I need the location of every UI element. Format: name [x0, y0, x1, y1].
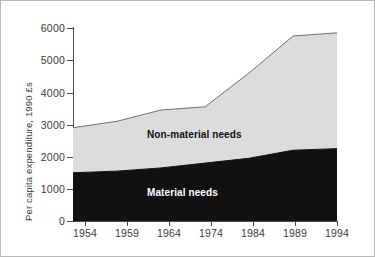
- y-tick-label-1000: 1000: [1, 183, 65, 195]
- series-label-material-needs: Material needs: [147, 187, 218, 198]
- y-tick-label-6000: 6000: [1, 22, 65, 34]
- x-tick-label-1964: 1964: [157, 227, 181, 239]
- x-tick-1974: [211, 221, 212, 226]
- x-tick-label-1989: 1989: [283, 227, 307, 239]
- x-tick-label-1974: 1974: [199, 227, 223, 239]
- x-tick-1984: [253, 221, 254, 226]
- x-tick-label-1984: 1984: [241, 227, 265, 239]
- x-tick-1964: [169, 221, 170, 226]
- y-tick-label-2000: 2000: [1, 151, 65, 163]
- y-tick-label-5000: 5000: [1, 54, 65, 66]
- x-tick-1959: [127, 221, 128, 226]
- x-tick-1994: [337, 221, 338, 226]
- x-tick-label-1959: 1959: [115, 227, 139, 239]
- x-axis-line: [73, 221, 338, 222]
- y-tick-label-0: 0: [1, 215, 65, 227]
- x-tick-1954: [85, 221, 86, 226]
- y-tick-label-4000: 4000: [1, 87, 65, 99]
- chart-frame: Per capita expenditure, 1990 £s 6000 500…: [0, 0, 375, 257]
- y-tick-label-3000: 3000: [1, 119, 65, 131]
- plot-area: Non-material needs Material needs: [73, 28, 337, 221]
- x-tick-label-1954: 1954: [73, 227, 97, 239]
- series-label-non-material-needs: Non-material needs: [147, 129, 242, 140]
- x-tick-label-1994: 1994: [325, 227, 349, 239]
- x-tick-1989: [295, 221, 296, 226]
